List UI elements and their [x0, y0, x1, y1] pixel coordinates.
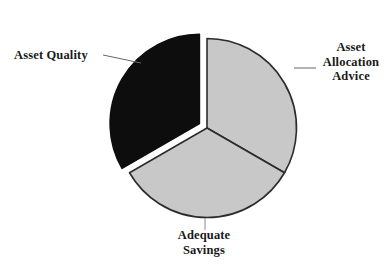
pie-chart-figure: Asset Quality Asset Allocation Advice Ad… — [0, 0, 387, 272]
leader-line-asset-quality — [103, 55, 141, 63]
pie-label-adequate-savings: Adequate Savings — [152, 228, 256, 257]
pie-label-asset-allocation-advice: Asset Allocation Advice — [318, 40, 384, 84]
pie-label-asset-quality: Asset Quality — [14, 48, 106, 63]
